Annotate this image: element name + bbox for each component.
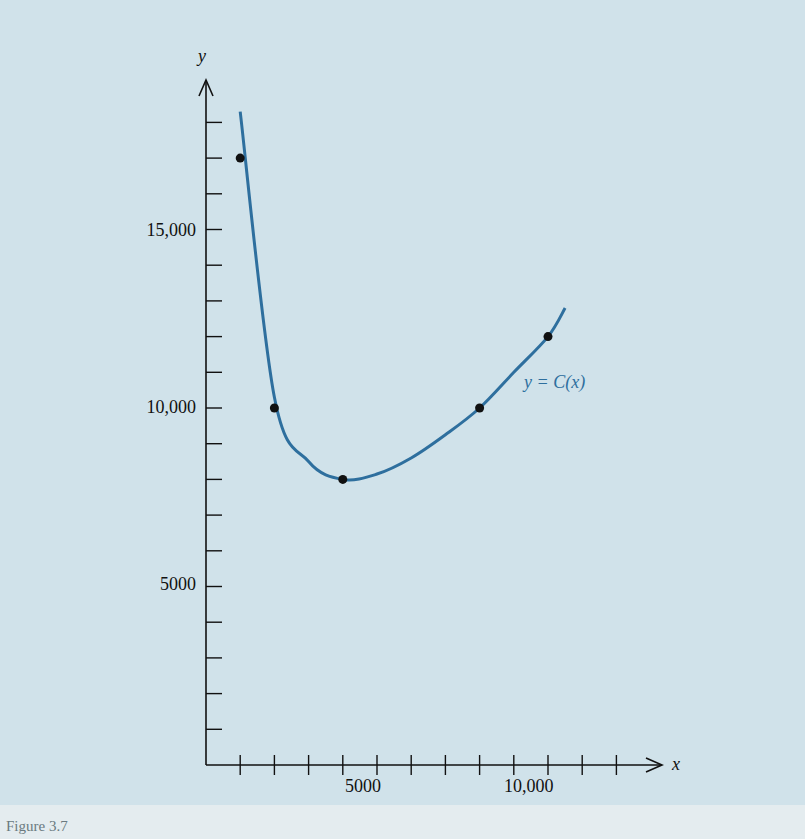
data-point xyxy=(236,154,245,163)
y-axis-label: y xyxy=(196,46,206,66)
x-tick-10000: 10,000 xyxy=(504,776,554,796)
chart: x y 5000 10,000 5000 10,000 15,000 y = C… xyxy=(0,0,805,805)
y-tick-10000: 10,000 xyxy=(147,397,197,417)
curve-label: y = C(x) xyxy=(522,372,585,393)
data-point xyxy=(270,404,279,413)
x-axis-label: x xyxy=(671,754,680,774)
x-tick-5000: 5000 xyxy=(345,776,381,796)
y-axis xyxy=(199,80,222,765)
y-tick-5000: 5000 xyxy=(160,574,196,594)
data-point xyxy=(544,332,553,341)
figure-caption: Figure 3.7 xyxy=(6,818,68,835)
y-tick-15000: 15,000 xyxy=(147,220,197,240)
cost-curve xyxy=(240,112,565,480)
x-axis xyxy=(206,755,662,775)
data-point xyxy=(338,475,347,484)
data-point xyxy=(475,404,484,413)
caption-strip xyxy=(0,805,805,839)
